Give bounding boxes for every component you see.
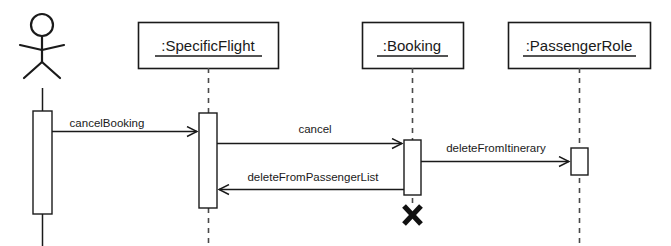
activation-bar-passenger-role[interactable]	[571, 148, 588, 175]
message-label-cancel-booking: cancelBooking	[70, 117, 145, 129]
object-label-specific-flight: :SpecificFlight	[161, 37, 255, 54]
stick-figure-actor-icon	[20, 14, 64, 78]
x-destruction-icon	[404, 206, 421, 224]
uml-sequence-diagram: :SpecificFlight :Booking :PassengerRole	[0, 0, 671, 246]
object-label-passenger-role: :PassengerRole	[526, 37, 633, 54]
activation-bar-booking[interactable]	[404, 140, 421, 195]
object-label-booking: :Booking	[383, 37, 441, 54]
message-cancel-booking[interactable]: cancelBooking	[52, 117, 197, 132]
message-delete-from-passenger-list[interactable]: deleteFromPassengerList	[219, 171, 404, 190]
actor-activation-bar[interactable]	[33, 111, 52, 214]
activation-bar-specific-flight[interactable]	[199, 113, 217, 208]
message-label-delete-from-passenger-list: deleteFromPassengerList	[247, 171, 379, 183]
participant-specific-flight[interactable]: :SpecificFlight	[139, 23, 279, 246]
message-label-delete-from-itinerary: deleteFromItinerary	[446, 142, 546, 154]
message-delete-from-itinerary[interactable]: deleteFromItinerary	[421, 142, 569, 162]
participant-actor[interactable]	[20, 14, 64, 246]
message-label-cancel: cancel	[298, 123, 331, 135]
participant-booking[interactable]: :Booking	[363, 23, 464, 225]
message-cancel[interactable]: cancel	[217, 123, 402, 144]
participant-passenger-role[interactable]: :PassengerRole	[509, 23, 651, 246]
diagram-canvas: :SpecificFlight :Booking :PassengerRole	[0, 0, 671, 246]
